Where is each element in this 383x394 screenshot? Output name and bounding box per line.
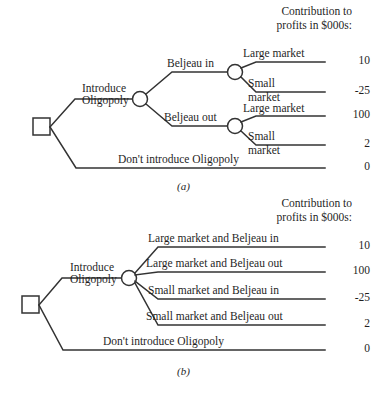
panel-a-header-line1: Contribution to bbox=[232, 6, 352, 18]
panel-a-label-introduce-line1: Introduce bbox=[82, 83, 126, 95]
panel-a-label-small-market-upper-line1: Small bbox=[248, 78, 275, 90]
panel-a-label-large-market-lower: Large market bbox=[243, 103, 304, 115]
panel-a-outcome-large-upper bbox=[241, 62, 325, 68]
panel-a-caption: (a) bbox=[177, 181, 190, 192]
panel-b-payoff-1: 10 bbox=[336, 240, 370, 252]
decision-tree-figure: Contribution to profits in $000s: Introd… bbox=[0, 0, 383, 394]
panel-a-label-beljeau-out: Beljeau out bbox=[164, 112, 217, 124]
panel-b-caption: (b) bbox=[177, 366, 190, 377]
panel-a-payoff-4: 2 bbox=[336, 138, 370, 150]
panel-b-decision-square bbox=[22, 296, 39, 313]
panel-b-payoff-4: 2 bbox=[336, 318, 370, 330]
panel-a-payoff-5: 0 bbox=[336, 161, 370, 173]
panel-b-payoff-5: 0 bbox=[336, 343, 370, 355]
panel-a-decision-square bbox=[33, 118, 50, 135]
panel-b-outcome-2 bbox=[135, 272, 325, 275]
panel-b-label-introduce-line1: Introduce bbox=[70, 262, 114, 274]
panel-a-label-large-market-upper: Large market bbox=[243, 48, 304, 60]
panel-b-label-outcome-3: Small market and Beljeau in bbox=[148, 285, 279, 297]
panel-b-payoff-3: -25 bbox=[336, 292, 370, 304]
panel-b-header-line2: profits in $000s: bbox=[232, 212, 352, 224]
panel-a-outcome-large-lower bbox=[241, 116, 325, 122]
panel-a-payoff-3: 100 bbox=[336, 109, 370, 121]
panel-a-label-small-market-lower-line2: market bbox=[248, 145, 280, 157]
panel-b-label-outcome-4: Small market and Beljeau out bbox=[146, 311, 283, 323]
panel-b-header-line1: Contribution to bbox=[232, 198, 352, 210]
panel-a-payoff-2: -25 bbox=[336, 85, 370, 97]
panel-b-label-outcome-2: Large market and Beljeau out bbox=[146, 258, 282, 270]
panel-a-branch-beljeau-in bbox=[146, 72, 228, 94]
panel-b-label-introduce-line2: Oligopoly bbox=[70, 274, 117, 286]
panel-a-label-dont-introduce: Don't introduce Oligopoly bbox=[118, 154, 239, 166]
panel-a-label-introduce-line2: Oligopoly bbox=[82, 95, 129, 107]
panel-a-header-line2: profits in $000s: bbox=[232, 20, 352, 32]
panel-b-label-outcome-1: Large market and Beljeau in bbox=[148, 233, 279, 245]
panel-a-label-small-market-lower-line1: Small bbox=[248, 131, 275, 143]
panel-a-label-beljeau-in: Beljeau in bbox=[167, 58, 214, 70]
panel-b-payoff-2: 100 bbox=[336, 265, 370, 277]
panel-a-payoff-1: 10 bbox=[336, 55, 370, 67]
panel-b-label-dont-introduce: Don't introduce Oligopoly bbox=[103, 336, 224, 348]
